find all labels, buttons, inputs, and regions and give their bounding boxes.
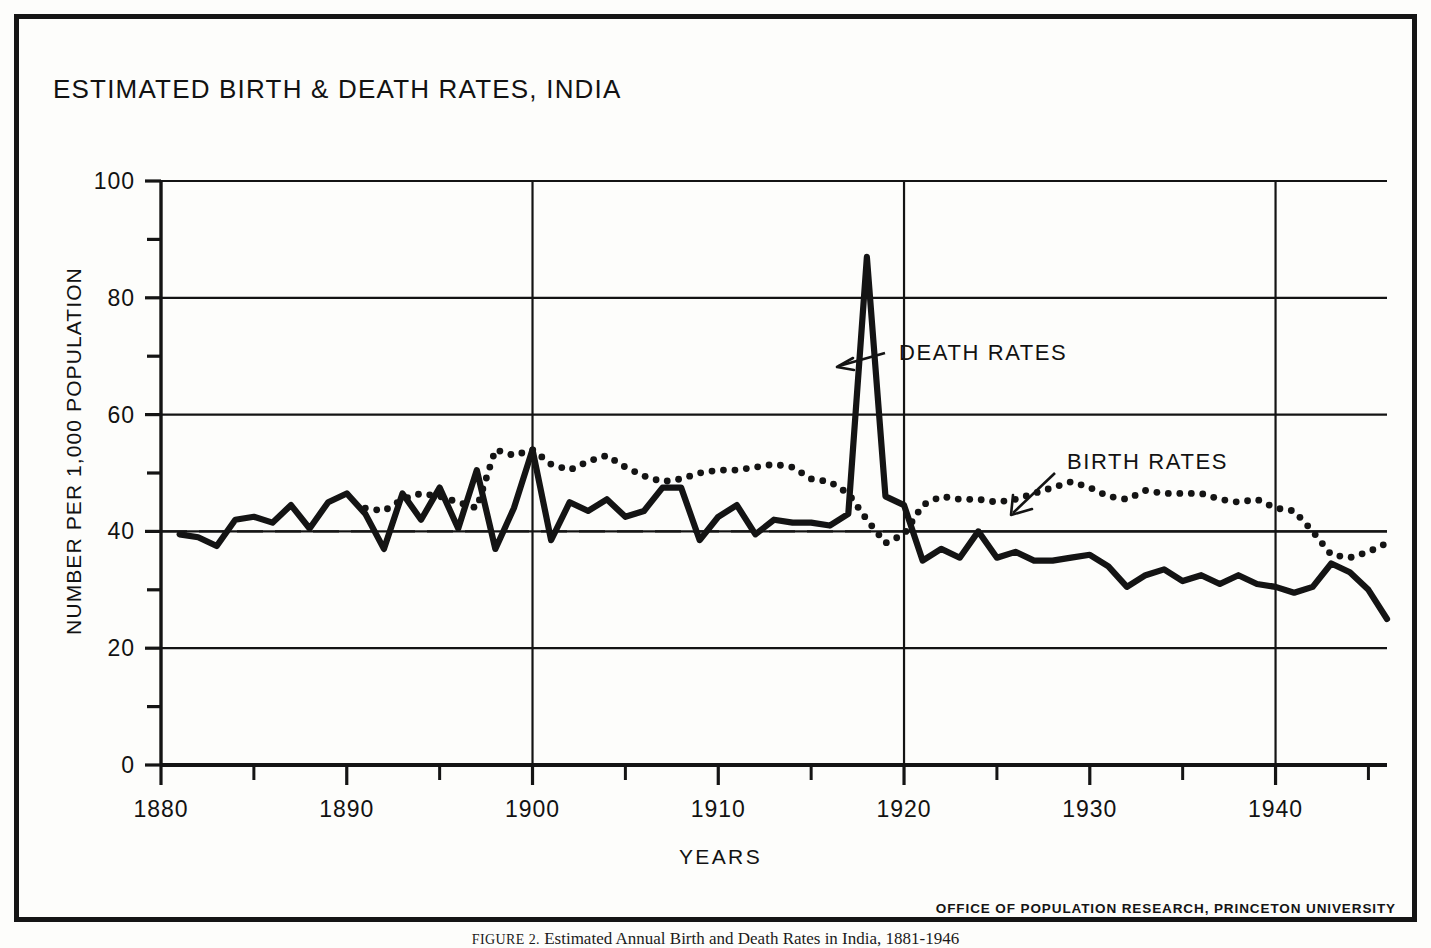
series-death-rates (180, 257, 1387, 619)
chart-plate: ESTIMATED BIRTH & DEATH RATES, INDIA NUM… (14, 14, 1417, 922)
svg-text:100: 100 (94, 168, 135, 194)
caption-text: Estimated Annual Birth and Death Rates i… (544, 929, 959, 948)
svg-text:1910: 1910 (691, 796, 746, 822)
figure-page: ESTIMATED BIRTH & DEATH RATES, INDIA NUM… (0, 0, 1431, 948)
svg-text:60: 60 (107, 402, 135, 428)
svg-text:1890: 1890 (319, 796, 374, 822)
svg-text:40: 40 (107, 518, 135, 544)
chart-plot-area: 0204060801001880189019001910192019301940… (19, 19, 1422, 927)
svg-text:BIRTH RATES: BIRTH RATES (1067, 449, 1228, 474)
svg-text:20: 20 (107, 635, 135, 661)
svg-text:1900: 1900 (505, 796, 560, 822)
figure-caption: FIGURE 2. Estimated Annual Birth and Dea… (0, 929, 1431, 948)
svg-text:DEATH RATES: DEATH RATES (899, 340, 1067, 365)
caption-label: FIGURE 2. (472, 932, 540, 947)
svg-text:0: 0 (121, 752, 135, 778)
annotations-group: DEATH RATESBIRTH RATES (837, 340, 1228, 515)
svg-text:80: 80 (107, 285, 135, 311)
tick-marks-group (145, 181, 1368, 785)
tick-labels-group: 0204060801001880189019001910192019301940 (94, 168, 1304, 822)
svg-text:1940: 1940 (1248, 796, 1303, 822)
svg-text:1930: 1930 (1062, 796, 1117, 822)
svg-text:1880: 1880 (133, 796, 188, 822)
svg-text:1920: 1920 (876, 796, 931, 822)
